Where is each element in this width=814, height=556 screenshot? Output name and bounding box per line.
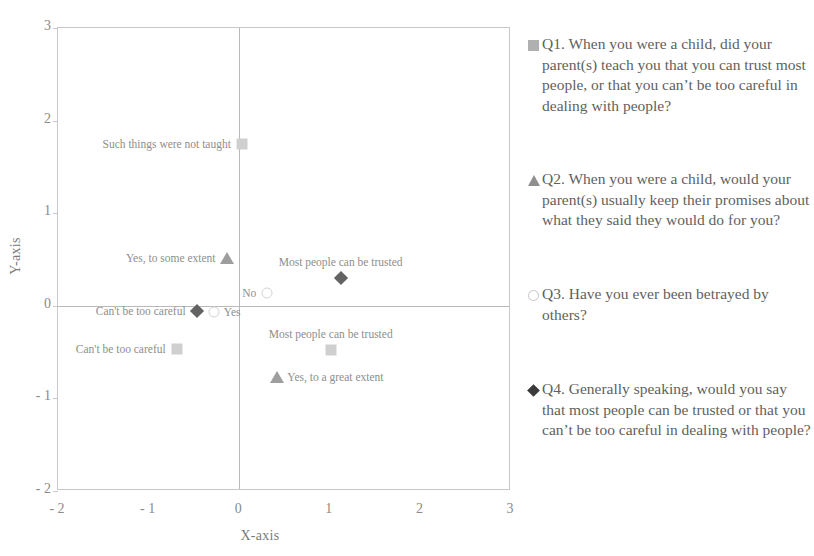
data-point [262,287,273,298]
triangle-marker-icon [220,252,234,264]
data-point-label: Most people can be trusted [269,328,393,340]
legend-label: Q2. When you were a child, would your pa… [542,169,814,231]
diamond-marker-icon [190,304,204,318]
x-tick-label: 1 [309,501,349,517]
data-point [192,306,202,316]
x-axis-title: X-axis [0,528,520,544]
square-marker-icon [236,138,247,149]
data-point-label: No [242,287,256,299]
diamond-legend-icon [527,384,540,397]
data-point [270,371,284,383]
y-axis-title: Y-axis [8,216,24,296]
square-legend-icon [528,40,539,51]
x-tick-label: - 2 [37,501,77,517]
data-point-label: Most people can be trusted [279,256,403,268]
data-point-label: Yes, to some extent [126,252,216,264]
y-tickmark [53,398,58,399]
data-point-label: Can't be too careful [96,305,186,317]
data-point-label: Yes [224,306,241,318]
y-tick-label: 2 [11,111,51,127]
data-point [236,138,247,149]
y-tick-label: 0 [11,296,51,312]
legend-label: Q1. When you were a child, did your pare… [542,34,814,116]
data-point [336,273,346,283]
data-point-label: Yes, to a great extent [287,371,383,383]
y-tickmark [53,121,58,122]
y-tickmark [53,306,58,307]
legend: Q1. When you were a child, did your pare… [528,34,814,534]
data-point-label: Can't be too careful [76,343,166,355]
triangle-marker-icon [270,371,284,383]
y-tickmark [53,28,58,29]
data-point [171,344,182,355]
plot-panel: Y-axis X-axis 3210- 1- 2 - 2- 10123 Such… [0,0,520,556]
circle-legend-icon [528,290,539,301]
circle-marker-icon [262,287,273,298]
y-tick-label: - 1 [11,388,51,404]
data-point [220,252,234,264]
y-tick-label: - 2 [11,481,51,497]
scatter-plot-figure: Y-axis X-axis 3210- 1- 2 - 2- 10123 Such… [0,0,814,556]
square-marker-icon [171,344,182,355]
y-tickmark [53,491,58,492]
x-tick-label: - 1 [128,501,168,517]
y-tickmark [53,213,58,214]
data-point [208,307,219,318]
legend-entry-1[interactable]: Q1. When you were a child, did your pare… [528,34,814,116]
y-tick-label: 3 [11,18,51,34]
x-tick-label: 2 [399,501,439,517]
diamond-marker-icon [334,271,348,285]
legend-entry-3[interactable]: Q3. Have you ever been betrayed by other… [528,284,814,325]
x-tick-label: 0 [218,501,258,517]
legend-entry-4[interactable]: Q4. Generally speaking, would you say th… [528,379,814,441]
zero-line-vertical [239,28,240,489]
x-tick-label: 3 [490,501,530,517]
data-point-label: Such things were not taught [103,138,231,150]
legend-label: Q3. Have you ever been betrayed by other… [542,284,814,325]
y-tick-label: 1 [11,203,51,219]
legend-label: Q4. Generally speaking, would you say th… [542,379,814,441]
data-point [325,345,336,356]
legend-entry-2[interactable]: Q2. When you were a child, would your pa… [528,169,814,231]
plot-frame: Such things were not taughtCan't be too … [57,27,510,490]
square-marker-icon [325,345,336,356]
triangle-legend-icon [528,175,540,186]
circle-marker-icon [208,307,219,318]
